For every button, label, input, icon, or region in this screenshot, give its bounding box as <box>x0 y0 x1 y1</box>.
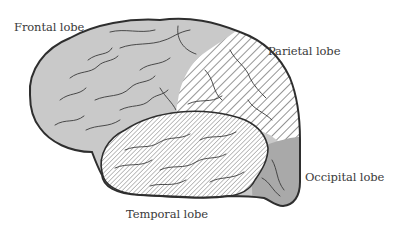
parietal-lobe-label: Parietal lobe <box>268 44 340 58</box>
brain-illustration <box>0 0 393 233</box>
occipital-lobe-label: Occipital lobe <box>305 170 384 184</box>
brain-lobes-diagram: Frontal lobe Parietal lobe Occipital lob… <box>0 0 393 233</box>
temporal-lobe-label: Temporal lobe <box>126 207 208 221</box>
frontal-lobe-label: Frontal lobe <box>14 20 84 34</box>
